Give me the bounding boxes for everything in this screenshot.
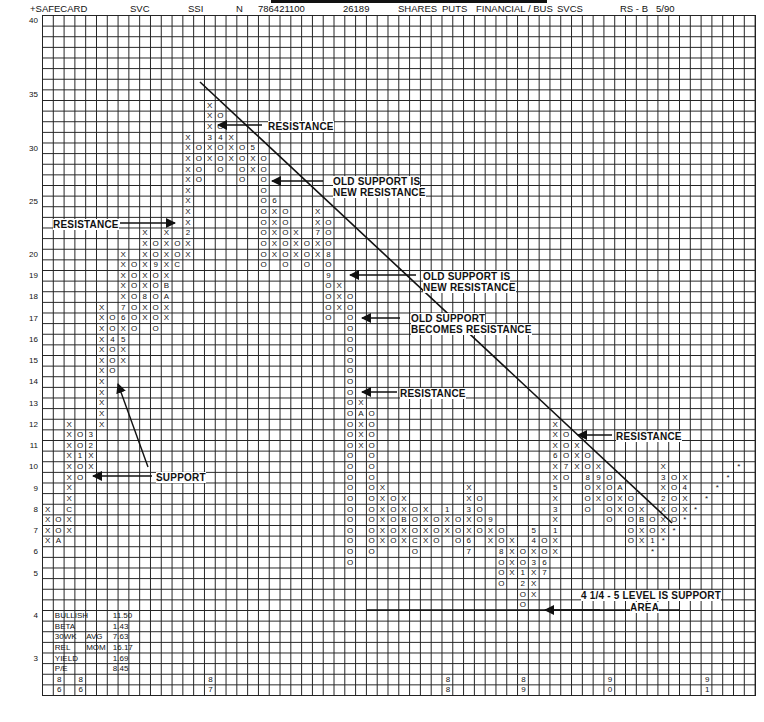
annotation-label: RESISTANCE bbox=[400, 388, 466, 399]
downtrend-line bbox=[200, 82, 672, 523]
trend-lines-and-arrows bbox=[0, 0, 764, 722]
annotation-label: 4 1/4 - 5 LEVEL IS SUPPORT bbox=[581, 590, 721, 601]
annotation-label: SUPPORT bbox=[156, 472, 206, 483]
annotation-label: OLD SUPPORT IS bbox=[423, 271, 510, 282]
annotation-label: OLD SUPPORT IS bbox=[333, 176, 420, 187]
annotation-label: AREA bbox=[630, 602, 659, 613]
annotation-label: OLD SUPPORT bbox=[411, 313, 485, 324]
arrow-support-diagonal bbox=[118, 384, 148, 467]
annotation-label: NEW RESISTANCE bbox=[333, 187, 426, 198]
annotation-label: RESISTANCE bbox=[616, 431, 682, 442]
annotation-label: NEW RESISTANCE bbox=[423, 282, 516, 293]
annotation-label: RESISTANCE bbox=[53, 219, 119, 230]
annotation-label: RESISTANCE bbox=[268, 121, 334, 132]
annotation-label: BECOMES RESISTANCE bbox=[411, 324, 532, 335]
